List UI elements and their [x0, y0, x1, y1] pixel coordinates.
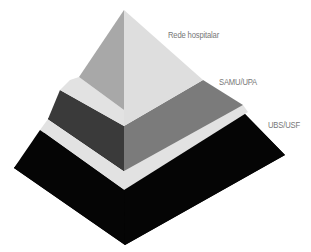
pyramid-diagram [0, 0, 311, 252]
label-ubs-usf: UBS/USF [268, 120, 300, 130]
label-samu-upa: SAMU/UPA [219, 77, 257, 87]
label-rede-hospitalar: Rede hospitalar [168, 30, 219, 40]
